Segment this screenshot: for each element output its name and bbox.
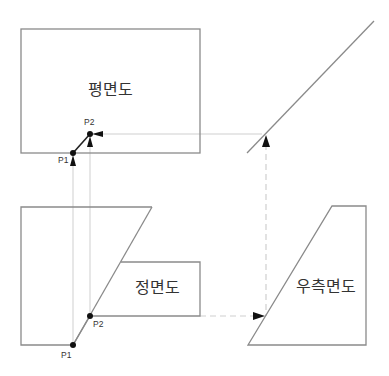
plan-view-label: 평면도 bbox=[88, 80, 133, 99]
plan-p1-label: P1 bbox=[58, 155, 69, 165]
front-view-label: 정면도 bbox=[135, 278, 180, 297]
plan-p2-label: P2 bbox=[84, 117, 95, 127]
miter-line bbox=[247, 21, 374, 153]
plan-edge-p1-p2 bbox=[73, 134, 90, 153]
orthographic-diagram: P1 P2 P1 P2 평면도 정면도 우측면도 bbox=[0, 0, 389, 376]
front-view-slant-edge bbox=[73, 207, 152, 345]
plan-point-p2 bbox=[87, 131, 93, 137]
arrow-up-plan-p2 bbox=[87, 136, 93, 147]
plan-point-p1 bbox=[70, 150, 76, 156]
arrow-left-plan-p2 bbox=[92, 131, 103, 137]
right-view-label: 우측면도 bbox=[296, 277, 356, 296]
front-point-p1 bbox=[70, 342, 76, 348]
front-view-outline bbox=[21, 207, 200, 345]
front-p1-label: P1 bbox=[61, 350, 72, 360]
arrow-up-plan-p1 bbox=[70, 155, 76, 166]
front-p2-label: P2 bbox=[93, 319, 104, 329]
